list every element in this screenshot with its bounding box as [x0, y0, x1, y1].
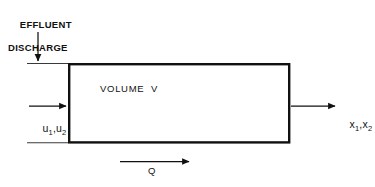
inflow-subscript-2: 2	[62, 128, 66, 137]
flow-rate-label: Q	[148, 165, 156, 176]
outflow-variables-label: x1,x2	[337, 106, 372, 143]
inflow-variables-label: u1,u2	[30, 110, 66, 147]
outflow-subscript-2: 2	[368, 124, 372, 133]
inflow-symbol-1: u	[42, 122, 48, 134]
effluent-discharge-line-2: DISCHARGE	[8, 42, 72, 53]
volume-label: VOLUME V	[100, 83, 158, 94]
effluent-discharge-label: EFFLUENT DISCHARGE	[8, 8, 72, 75]
diagram-canvas: EFFLUENT DISCHARGE VOLUME V u1,u2 x1,x2 …	[0, 0, 375, 187]
outflow-subscript-1: 1	[355, 124, 359, 133]
effluent-discharge-line-1: EFFLUENT	[20, 19, 72, 30]
inflow-subscript-1: 1	[49, 128, 53, 137]
reactor-volume-box	[69, 64, 289, 142]
